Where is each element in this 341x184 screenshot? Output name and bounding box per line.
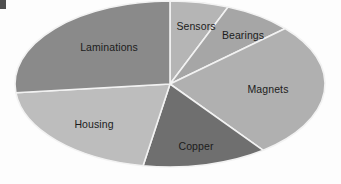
slice-label-bearings: Bearings [222,29,264,41]
pie-chart-canvas [0,0,341,184]
slice-label-housing: Housing [74,118,113,130]
slice-label-copper: Copper [178,140,213,152]
slice-label-magnets: Magnets [248,83,289,95]
pie-chart: Sensors Bearings Magnets Copper Housing … [0,0,341,184]
slice-label-laminations: Laminations [80,41,138,53]
slice-label-sensors: Sensors [176,20,215,32]
